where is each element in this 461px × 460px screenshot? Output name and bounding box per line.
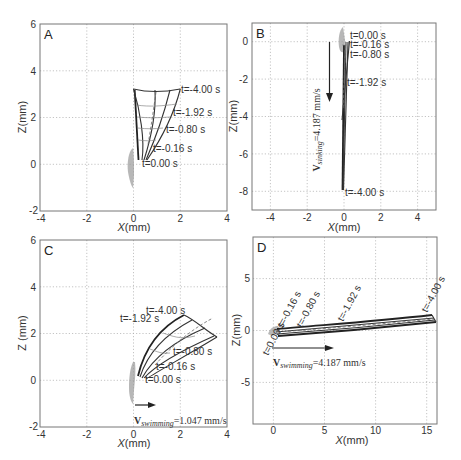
panel-d-ytick: 0 (244, 325, 250, 336)
figure-svg: A 6 4 2 0 -2 -4 -2 0 2 4 X(mm) Z(mm) (0, 0, 461, 460)
panel-b-velocity-label: Vsinking=4.187 mm/s (311, 88, 324, 171)
panel-d-time-label: t=-1.92 s (335, 283, 363, 323)
panel-c-xtick: 2 (178, 429, 184, 440)
panel-a-xlabel: X(mm) (117, 221, 151, 233)
panel-b-label: B (256, 26, 265, 41)
panel-d-ytick: -5 (241, 377, 250, 388)
panel-c-xtick: -2 (82, 429, 91, 440)
panel-b-time-label: t=-4.00 s (345, 187, 384, 198)
panel-d-xtick: 15 (421, 425, 433, 436)
panel-c-ytick: 4 (30, 282, 36, 293)
panel-a-ytick: 6 (30, 19, 36, 30)
panel-b-xtick: -4 (266, 212, 275, 223)
panel-c-grid (40, 240, 227, 427)
panel-d: D 5 0 -5 0 5 10 15 X(mm) Z(mm) t=0.00 s … (230, 237, 447, 446)
panel-c-ylabel: Z (mm) (16, 315, 28, 350)
panel-b-ytick: -6 (239, 149, 248, 160)
panel-d-velocity-label: Vswimming=4.187 mm/s (273, 357, 366, 370)
panel-a-ytick: 4 (30, 66, 36, 77)
panel-a-time-label: t=0.00 s (142, 158, 178, 169)
panel-c-xlabel: X(mm) (117, 437, 151, 449)
panel-a-label: A (44, 27, 53, 42)
panel-d-xtick: 0 (271, 425, 277, 436)
panel-b-ytick: -2 (239, 74, 248, 85)
panel-b: B 0 -2 -4 -6 -8 -4 -2 0 2 4 X(mm) Z(mm) … (227, 23, 436, 233)
panel-d-curves (268, 315, 436, 336)
panel-d-xtick: 10 (370, 425, 382, 436)
panel-d-time-label: t=-4.00 s (419, 274, 447, 314)
panel-a-xtick: -4 (37, 213, 46, 224)
panel-b-ytick: -8 (239, 186, 248, 197)
panel-b-arrowhead-icon (326, 93, 333, 102)
panel-d-xlabel: X(mm) (335, 434, 369, 446)
panel-b-ylabel: Z(mm) (227, 100, 239, 132)
panel-c-time-label: t=0.00 s (145, 374, 181, 385)
panel-a-time-label: t=-0.16 s (153, 143, 192, 154)
panel-a: A 6 4 2 0 -2 -4 -2 0 2 4 X(mm) Z(mm) (16, 19, 230, 233)
panel-c-ytick: 6 (30, 235, 36, 246)
panel-b-xtick: -2 (303, 212, 312, 223)
panel-a-xtick: 2 (178, 213, 184, 224)
panel-d-ylabel: Z(mm) (230, 314, 242, 346)
panel-c-time-label: t=-0.16 s (156, 361, 195, 372)
panel-b-time-label: t=-1.92 s (347, 77, 386, 88)
panel-d-arrowhead-icon (325, 345, 334, 351)
panel-c-head-blob (129, 362, 135, 404)
panel-c-arrowhead-icon (148, 402, 156, 408)
panel-c-time-label: t=-0.80 s (173, 346, 212, 357)
panel-c-ytick: 2 (30, 328, 36, 339)
panel-b-xtick: 4 (415, 212, 421, 223)
panel-b-curves (342, 41, 350, 190)
panel-b-time-label: t=-0.80 s (350, 49, 389, 60)
panel-a-xtick: -2 (82, 213, 91, 224)
panel-a-time-label: t=-1.92 s (173, 107, 212, 118)
figure-stage: A 6 4 2 0 -2 -4 -2 0 2 4 X(mm) Z(mm) (0, 0, 461, 460)
panel-c: C 6 4 2 0 -2 -4 -2 0 2 4 X(mm) Z (mm) t=… (16, 235, 230, 449)
panel-c-ytick: 0 (30, 375, 36, 386)
panel-d-xtick: 5 (322, 425, 328, 436)
panel-a-time-label: t=-4.00 s (181, 84, 220, 95)
panel-c-xtick: 4 (224, 429, 230, 440)
panel-b-xtick: 2 (378, 212, 384, 223)
panel-c-xtick: -4 (37, 429, 46, 440)
panel-d-ytick: 5 (244, 273, 250, 284)
panel-b-ytick: 0 (242, 36, 248, 47)
panel-c-label: C (44, 243, 53, 258)
panel-a-ylabel: Z(mm) (16, 101, 28, 133)
panel-b-ytick: -4 (239, 111, 248, 122)
panel-a-ytick: 2 (30, 112, 36, 123)
panel-a-head-blob (128, 148, 134, 188)
panel-d-label: D (257, 240, 266, 255)
panel-b-xlabel: X(mm) (327, 221, 361, 233)
panel-c-time-label: t=-1.92 s (120, 313, 159, 324)
panel-a-time-label: t=-0.80 s (166, 124, 205, 135)
panel-a-ytick: 0 (30, 159, 36, 170)
panel-a-xtick: 4 (224, 213, 230, 224)
